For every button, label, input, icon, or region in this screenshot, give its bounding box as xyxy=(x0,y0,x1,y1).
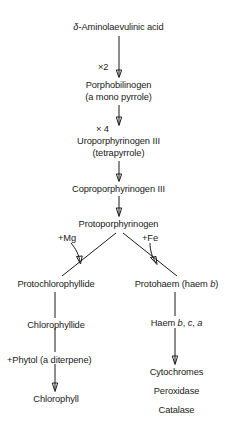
node-aminolaevulinic-acid: δ-Aminolaevulinic acid xyxy=(0,22,237,34)
edge-label-plus-phytol-text: +Phytol (a diterpene) xyxy=(7,355,91,365)
node-chlorophyll: Chlorophyll xyxy=(0,394,112,406)
node-haem-italic-a: a xyxy=(197,318,202,328)
node-protohaem-suffix: ) xyxy=(215,279,218,289)
node-cytochromes-label: Cytochromes xyxy=(150,367,204,377)
node-chlorophyllide: Chlorophyllide xyxy=(0,320,112,332)
node-haem-b-c-a: Haem b, c, a xyxy=(118,318,235,330)
node-coproporphyrinogen-iii: Coproporphyrinogen III xyxy=(0,184,237,196)
node-chlorophyllide-label: Chlorophyllide xyxy=(27,320,85,330)
node-uroporphyrinogen-iii-label: Uroporphyrinogen III xyxy=(77,136,160,146)
edge-label-times-2-text: ×2 xyxy=(98,62,108,72)
edge-label-plus-fe-text: +Fe xyxy=(142,233,158,243)
node-haem-prefix: Haem xyxy=(151,318,178,328)
hook-arrow-mg xyxy=(71,243,80,262)
node-peroxidase: Peroxidase xyxy=(118,386,235,398)
edge-label-times-4: × 4 xyxy=(96,124,109,134)
node-uroporphyrinogen-iii: Uroporphyrinogen III (tetrapyrrole) xyxy=(0,136,237,160)
pathway-diagram: δ-Aminolaevulinic acid Porphobilinogen (… xyxy=(0,0,237,425)
node-catalase-label: Catalase xyxy=(159,405,195,415)
node-protoporphyrinogen: Protoporphyrinogen xyxy=(0,219,237,231)
node-catalase: Catalase xyxy=(118,405,235,417)
edge-label-plus-fe: +Fe xyxy=(142,233,158,243)
node-protochlorophyllide: Protochlorophyllide xyxy=(0,279,112,291)
edge-label-times-2: ×2 xyxy=(98,62,108,72)
node-peroxidase-label: Peroxidase xyxy=(154,386,200,396)
node-protohaem-prefix: Protohaem (haem xyxy=(135,279,210,289)
node-porphobilinogen: Porphobilinogen (a mono pyrrole) xyxy=(0,80,237,104)
node-protoporphyrinogen-label: Protoporphyrinogen xyxy=(79,219,159,229)
edge-label-plus-mg: +Mg xyxy=(58,233,76,243)
node-uroporphyrinogen-iii-sublabel: (tetrapyrrole) xyxy=(0,148,237,160)
edge-label-plus-phytol: +Phytol (a diterpene) xyxy=(7,355,91,365)
node-aminolaevulinic-acid-label: -Aminolaevulinic acid xyxy=(78,22,163,32)
edge-label-plus-mg-text: +Mg xyxy=(58,233,76,243)
node-chlorophyll-label: Chlorophyll xyxy=(33,394,78,404)
edge-label-times-4-text: × 4 xyxy=(96,124,109,134)
node-coproporphyrinogen-iii-label: Coproporphyrinogen III xyxy=(72,184,165,194)
node-cytochromes: Cytochromes xyxy=(118,367,235,379)
node-porphobilinogen-sublabel: (a mono pyrrole) xyxy=(0,92,237,104)
node-protohaem: Protohaem (haem b) xyxy=(118,279,235,291)
node-protochlorophyllide-label: Protochlorophyllide xyxy=(17,279,94,289)
node-porphobilinogen-label: Porphobilinogen xyxy=(86,80,152,90)
